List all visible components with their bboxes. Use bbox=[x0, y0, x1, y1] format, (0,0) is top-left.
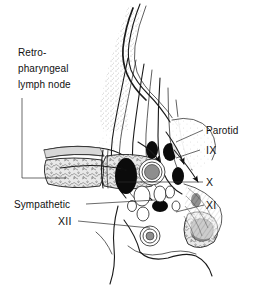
nerve-ix-label: IX bbox=[206, 144, 217, 156]
jugular-lumen-section bbox=[115, 158, 137, 194]
retropharyngeal-label-line2: pharyngeal bbox=[18, 63, 68, 74]
sympathetic-label: Sympathetic bbox=[14, 199, 70, 210]
nerve-x-label: X bbox=[206, 176, 213, 188]
artery-section-large bbox=[139, 159, 165, 185]
artery-section-small bbox=[140, 226, 160, 246]
parotid-label: Parotid bbox=[206, 125, 238, 136]
anatomy-illustration-svg: Retro- pharyngeal lymph node Parotid IX … bbox=[0, 0, 268, 288]
nerve-xi-label: XI bbox=[206, 199, 217, 211]
retropharyngeal-label-line3: lymph node bbox=[18, 79, 71, 90]
nerve-xii-label: XII bbox=[58, 215, 72, 227]
anatomical-figure: Retro- pharyngeal lymph node Parotid IX … bbox=[0, 0, 268, 288]
retropharyngeal-label-line1: Retro- bbox=[18, 47, 46, 58]
